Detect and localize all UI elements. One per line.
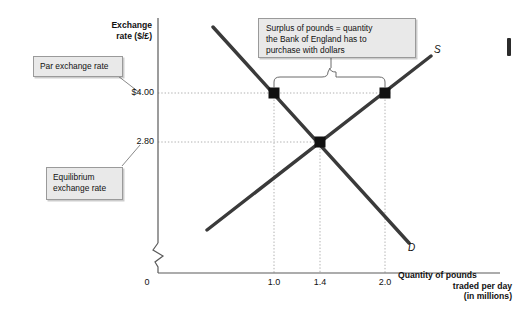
equilibrium-text-line2: exchange rate — [53, 183, 106, 193]
y-tick-label-280: 2.80 — [110, 136, 154, 146]
surplus-brace — [274, 68, 385, 88]
x-tick-label-20: 2.0 — [371, 277, 399, 287]
x-tick-label-0: 0 — [140, 277, 154, 287]
par-exchange-rate-text: Par exchange rate — [40, 61, 108, 71]
y-axis-title-line1: Exchange — [111, 20, 152, 30]
exchange-rate-supply-demand-chart: Par exchange rate Equilibrium exchange r… — [0, 0, 516, 316]
equilibrium-leader — [122, 145, 140, 166]
surplus-text-line3: purchase with dollars — [266, 45, 345, 55]
par-exchange-rate-callout: Par exchange rate — [33, 56, 123, 77]
y-tick-label-400: $4.00 — [110, 87, 154, 97]
x-axis-title-line3: (in millions) — [398, 291, 512, 302]
demand-curve-label: D — [408, 242, 415, 253]
surplus-text-line1: Surplus of pounds = quantity — [266, 23, 372, 33]
page-edge-artifact — [507, 38, 511, 56]
surplus-of-pounds-callout: Surplus of pounds = quantity the Bank of… — [258, 18, 416, 58]
x-tick-label-10: 1.0 — [260, 277, 288, 287]
x-axis-title-line1: Quantity of pounds — [398, 270, 512, 281]
y-axis-title: Exchange rate ($/£) — [86, 20, 152, 41]
supply-curve-label: S — [434, 44, 441, 55]
equilibrium-exchange-rate-callout: Equilibrium exchange rate — [46, 167, 123, 200]
x-axis-title: Quantity of pounds traded per day (in mi… — [398, 270, 512, 302]
equilibrium-text-line1: Equilibrium — [53, 172, 94, 182]
x-axis-title-line2: traded per day — [398, 281, 512, 292]
surplus-text-line2: the Bank of England has to — [266, 34, 367, 44]
y-axis-title-line2: rate ($/£) — [116, 31, 152, 41]
x-tick-label-14: 1.4 — [306, 277, 334, 287]
